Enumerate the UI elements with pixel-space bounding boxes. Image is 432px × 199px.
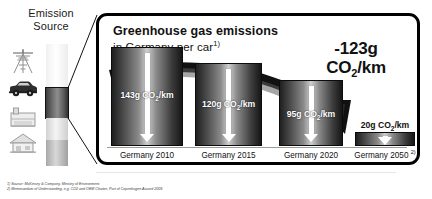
down-arrow-icon — [378, 136, 392, 144]
bar-value-label: 20g CO2/km — [355, 120, 415, 132]
emissions-chart-panel: Greenhouse gas emissions in Germany per … — [96, 13, 420, 165]
bar-value-post: /km — [240, 99, 255, 109]
source-segment-car-highlighted — [46, 88, 68, 118]
emission-source-panel: Emission Source — [0, 0, 92, 180]
bar-value-pre: 95g CO — [287, 109, 317, 119]
bar-group-germany-2010: 143g CO2/kmGermany 2010 — [111, 47, 183, 146]
bar-value-pre: 120g CO — [202, 99, 237, 109]
bar-category-label: Germany 2050 2) — [341, 149, 429, 160]
bar-value-label: 95g CO2/km — [280, 109, 342, 121]
bar-category-text: Germany 2020 — [284, 151, 338, 160]
bar-value-label: 143g CO2/km — [112, 90, 182, 102]
emission-source-title: Emission Source — [18, 7, 84, 32]
bar-category-text: Germany 2010 — [120, 151, 174, 160]
bar-category-text: Germany 2015 — [201, 151, 255, 160]
source-segment-power — [46, 44, 68, 88]
emission-source-title-line1: Emission — [18, 7, 84, 20]
bar-group-germany-2020: 95g CO2/kmGermany 2020 — [279, 80, 343, 146]
bar-value-post: /km — [320, 109, 335, 119]
slide-canvas: Emission Source — [0, 0, 432, 199]
footnote-divider — [96, 172, 396, 173]
bar-value-post: /km — [159, 90, 174, 100]
bar-value-pre: 143g CO — [120, 90, 155, 100]
emission-bar — [355, 132, 415, 146]
bar-group-germany-2050: 20g CO2/kmGermany 2050 2) — [355, 132, 415, 146]
bar-category-text: Germany 2050 — [354, 151, 408, 160]
emission-bar: 143g CO2/km — [111, 47, 183, 146]
footnote-2: 2) Memorandum of Understanding, e.g. CO2… — [7, 187, 307, 192]
source-segment-buildings — [46, 140, 68, 166]
source-segment-industry — [46, 118, 68, 140]
bar-value-post: /km — [394, 120, 409, 130]
bar-category-label: Germany 2015 — [181, 151, 276, 160]
emission-source-title-line2: Source — [18, 20, 84, 33]
bar-chart-area: 143g CO2/kmGermany 2010120g CO2/kmGerman… — [107, 32, 415, 162]
emission-source-stacked-bar — [46, 44, 68, 166]
chart-baseline — [107, 147, 407, 148]
power-tower-icon — [6, 48, 40, 74]
footnote-list: 1) Source: McKinsey & Company, Ministry … — [7, 182, 307, 191]
emission-bar: 95g CO2/km — [279, 80, 343, 146]
industry-icon — [6, 106, 40, 132]
bar-value-label: 120g CO2/km — [196, 99, 261, 111]
bar-footnote-marker: 2) — [411, 149, 416, 155]
emission-source-icon-list — [6, 48, 40, 160]
bar-group-germany-2015: 120g CO2/kmGermany 2015 — [195, 63, 262, 146]
car-icon — [6, 78, 40, 104]
emission-bar: 120g CO2/km — [195, 63, 262, 146]
house-icon — [6, 132, 40, 158]
bar-value-pre: 20g CO — [361, 120, 391, 130]
